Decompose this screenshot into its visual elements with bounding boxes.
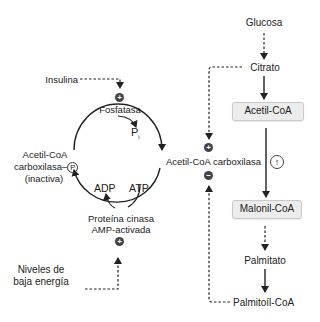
acc-active-label: Acetil-CoA carboxilasa: [166, 156, 261, 167]
energy-line2: baja energía: [13, 276, 69, 287]
inhibition-minus-icon: −: [204, 171, 213, 180]
activation-plus-icon: +: [204, 143, 213, 152]
acc-inactive-line2: carboxilasa–P: [14, 161, 78, 173]
acc-inactive-line1: Acetil-CoA: [23, 149, 68, 160]
ampk-line1: Proteína cinasa: [88, 213, 154, 224]
diagram-canvas: Insulina + Fosfatasa Pi Acetil-CoA carbo…: [0, 0, 320, 322]
malonyl-coa-box: Malonil-CoA: [232, 200, 302, 219]
energy-dashed-arrow: [85, 258, 118, 289]
pi-label: Pi: [131, 127, 140, 143]
ampk-line2: AMP-activada: [91, 224, 150, 235]
insulin-label: Insulina: [20, 74, 78, 85]
acc-inactive-line3: (inactiva): [25, 173, 64, 184]
phosphatase-label: Fosfatasa: [99, 104, 141, 115]
palmitoyl-coa-label: Palmitoíl-CoA: [233, 297, 294, 308]
glucose-label: Glucosa: [246, 17, 283, 28]
energy-line1: Niveles de: [18, 264, 65, 275]
insulin-dashed-arrow: [80, 79, 120, 88]
atp-label: ATP: [129, 183, 149, 194]
adp-label: ADP: [94, 183, 116, 194]
increase-arrow-icon: ↑: [270, 155, 284, 169]
insulin-plus-icon: +: [115, 93, 124, 102]
palmitate-label: Palmitato: [244, 255, 286, 266]
citrate-label: Citrato: [250, 62, 279, 73]
ampk-plus-icon: +: [115, 237, 124, 246]
acetyl-coa-box: Acetil-CoA: [232, 102, 304, 121]
palmitoyl-inhibition-dashed: [209, 186, 230, 302]
phosphate-circle-icon: P: [67, 162, 78, 173]
